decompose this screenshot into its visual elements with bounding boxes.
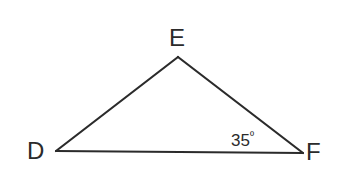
vertex-label-f: F — [306, 140, 321, 164]
side-df — [56, 151, 303, 153]
angle-f-value: 35 — [231, 131, 250, 150]
side-de — [56, 57, 178, 151]
triangle-diagram: E D F 35º — [0, 0, 344, 174]
angle-f-label: 35º — [231, 130, 254, 149]
vertex-label-e: E — [169, 26, 185, 50]
vertex-label-d: D — [27, 139, 44, 163]
degree-symbol: º — [250, 129, 254, 141]
